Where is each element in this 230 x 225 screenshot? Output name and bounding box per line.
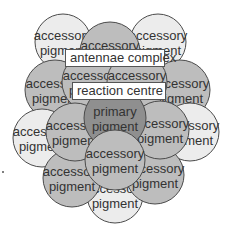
pigment-label: accessory xyxy=(108,68,167,83)
accessory-pigment-circle: accessorypigment xyxy=(85,130,145,190)
reaction-centre-label: reaction centre xyxy=(72,82,166,100)
pigment-label: accessory xyxy=(86,146,145,161)
stray-mark xyxy=(2,171,4,173)
pigment-cluster: accessorypigmentaccessorypigmentaccessor… xyxy=(0,0,230,225)
pigment-label: pigment xyxy=(49,179,96,194)
pigment-label: primary xyxy=(93,104,137,119)
pigment-label: pigment xyxy=(92,196,139,211)
pigment-label: pigment xyxy=(92,161,139,176)
photosystem-diagram: accessorypigmentaccessorypigmentaccessor… xyxy=(0,0,230,225)
pigment-label: pigment xyxy=(137,131,184,146)
antennae-complex-label: antennae complex xyxy=(65,49,165,67)
